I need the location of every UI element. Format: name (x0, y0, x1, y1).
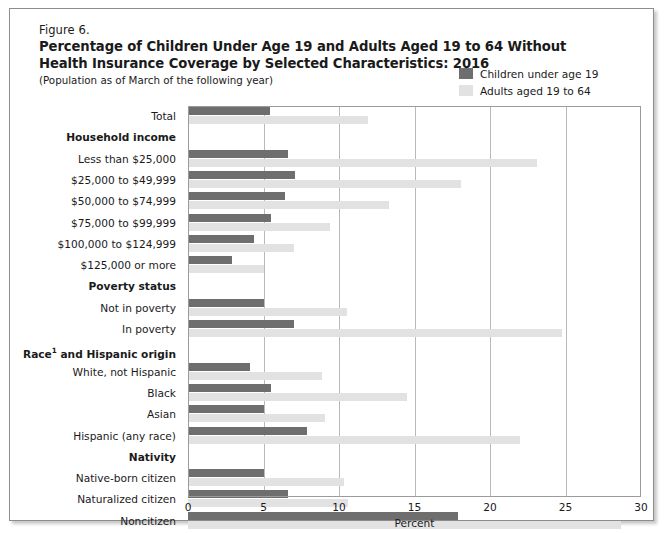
category-label: $75,000 to $99,999 (71, 213, 176, 234)
bar-adults (188, 116, 368, 124)
chart-legend: Children under age 19Adults aged 19 to 6… (459, 66, 634, 100)
category-label: Total (151, 106, 176, 127)
chart-plot-area (188, 106, 641, 497)
category-label: Not in poverty (100, 298, 176, 319)
bar-children (188, 469, 264, 477)
bar-adults (188, 159, 537, 167)
bar-adults (188, 180, 461, 188)
bar-adults (188, 478, 344, 486)
legend-swatch-icon (459, 68, 473, 79)
bar-adults (188, 393, 407, 401)
bar-adults (188, 201, 389, 209)
bar-group (188, 191, 641, 212)
x-tick-label: 10 (332, 501, 345, 513)
bar-adults (188, 414, 325, 422)
category-label: Noncitizen (120, 511, 176, 532)
bar-children (188, 320, 294, 328)
footnote-marker: 1 (52, 346, 57, 355)
category-label: In poverty (122, 319, 176, 340)
bar-group (188, 319, 641, 340)
figure-number: Figure 6. (39, 23, 639, 37)
category-label: White, not Hispanic (73, 362, 176, 383)
x-tick-label: 30 (634, 501, 647, 513)
bar-group (188, 170, 641, 191)
category-label: Hispanic (any race) (73, 426, 176, 447)
bar-children (188, 107, 270, 115)
legend-label: Adults aged 19 to 64 (480, 85, 591, 97)
bar-children (188, 299, 264, 307)
bar-group (188, 426, 641, 447)
category-label: $100,000 to $124,999 (58, 234, 176, 255)
category-label: Native-born citizen (76, 468, 176, 489)
figure-panel: Figure 6. Percentage of Children Under A… (9, 8, 654, 521)
x-tick-label: 15 (408, 501, 421, 513)
bar-adults (188, 265, 264, 273)
group-heading-label: Nativity (129, 447, 176, 468)
bar-adults (188, 308, 347, 316)
bar-adults (188, 329, 562, 337)
bar-group (188, 298, 641, 319)
x-tick-label: 5 (260, 501, 267, 513)
category-axis-labels: TotalHousehold incomeLess than $25,000$2… (10, 106, 182, 497)
bar-group (188, 404, 641, 425)
category-label: $25,000 to $49,999 (71, 170, 176, 191)
x-tick-label: 20 (483, 501, 496, 513)
category-label: Asian (147, 404, 176, 425)
bar-children (188, 214, 271, 222)
legend-item: Adults aged 19 to 64 (459, 83, 634, 98)
bar-group (188, 213, 641, 234)
bar-children (188, 150, 288, 158)
category-label: Less than $25,000 (78, 149, 176, 170)
legend-swatch-icon (459, 85, 473, 96)
bar-adults (188, 223, 330, 231)
category-label: $50,000 to $74,999 (71, 191, 176, 212)
bar-children (188, 192, 285, 200)
bar-children (188, 235, 254, 243)
x-tick-label: 25 (559, 501, 572, 513)
bar-group (188, 234, 641, 255)
bar-adults (188, 436, 520, 444)
category-label: Naturalized citizen (77, 489, 176, 510)
x-tick-label: 0 (185, 501, 192, 513)
bar-adults (188, 244, 294, 252)
bar-children (188, 384, 271, 392)
category-label: $125,000 or more (80, 255, 176, 276)
value-axis: 051015202530 Percent (188, 498, 641, 533)
legend-label: Children under age 19 (480, 68, 598, 80)
bar-children (188, 405, 264, 413)
legend-item: Children under age 19 (459, 66, 634, 81)
bar-group (188, 106, 641, 127)
figure-title-line1: Percentage of Children Under Age 19 and … (39, 39, 639, 56)
group-heading-label: Race1 and Hispanic origin (23, 340, 176, 361)
bar-children (188, 171, 295, 179)
bar-children (188, 363, 250, 371)
bar-group (188, 383, 641, 404)
bar-group (188, 362, 641, 383)
group-heading-label: Poverty status (89, 276, 176, 297)
group-heading-label: Household income (66, 127, 176, 148)
category-label: Black (147, 383, 176, 404)
bar-children (188, 256, 232, 264)
bar-children (188, 427, 307, 435)
bar-group (188, 468, 641, 489)
bar-group (188, 255, 641, 276)
bar-group (188, 149, 641, 170)
x-axis-title: Percent (188, 517, 641, 529)
bar-adults (188, 372, 322, 380)
